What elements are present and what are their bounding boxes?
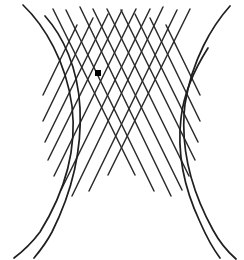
illusion-figure-canvas: [0, 0, 244, 260]
illusion-figure-svg: [0, 0, 244, 260]
fixation-dot-group: [95, 70, 101, 76]
fixation-dot: [95, 70, 101, 76]
